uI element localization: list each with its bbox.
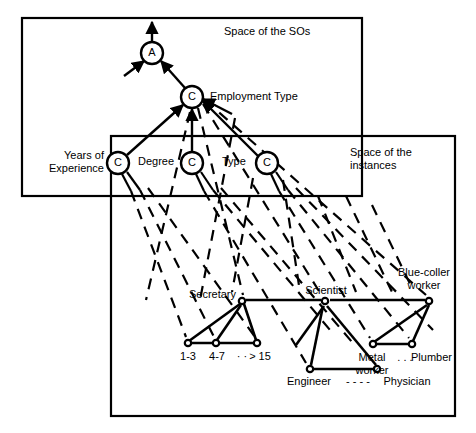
metalworker-label-line1: Metal (346, 351, 398, 364)
dashed-long-left (146, 112, 190, 300)
bluecollar-label-line1: Blue-coller (386, 266, 462, 279)
instance-marker-metalworker (370, 341, 376, 347)
node-employment-type-glyph: C (182, 90, 202, 103)
node-type-glyph: C (257, 156, 277, 169)
node-degree-glyph: C (182, 156, 202, 169)
edge-years-to-employmenttype (127, 105, 183, 155)
diagram-canvas: A C C C C Space of the SOs Space of the … (0, 0, 476, 433)
engineer-physician-ellipsis-label: - - - - (340, 375, 376, 388)
years-of-experience-label-line2: Experience (28, 162, 104, 175)
node-a-label: A (142, 46, 162, 59)
instance-marker-4-7 (213, 340, 219, 346)
edge-type-to-employmenttype (203, 101, 258, 156)
plumber-label: Plumber (411, 351, 452, 364)
scientist-label: Scientist (296, 284, 356, 297)
instance-marker-plumber (409, 341, 415, 347)
dashed-years-4-7 (140, 190, 214, 337)
dashed-employmenttype-scientist (203, 104, 322, 296)
instance-marker-gt15 (254, 340, 260, 346)
dashed-degree-physician (213, 190, 330, 330)
range-1-3-label: 1-3 (173, 350, 203, 363)
instance-space-title-line1: Space of the (350, 146, 412, 159)
range-gt15-label: > 15 (243, 350, 277, 363)
instance-marker-scientist (322, 298, 328, 304)
degree-label: Degree (138, 155, 174, 168)
bluecollar-label-line2: worker (386, 279, 462, 292)
dashed-type-extra (296, 188, 433, 330)
engineer-label: Engineer (276, 375, 342, 388)
secretary-label: Secretary (172, 288, 236, 301)
instance-marker-engineer (307, 366, 313, 372)
edge-secretary-gt15 (244, 304, 256, 340)
type-label: Type (222, 155, 246, 168)
edge-secretary-4-7 (217, 305, 241, 340)
edge-secretary-1-3 (189, 304, 240, 341)
node-years-of-experience-glyph: C (108, 156, 128, 169)
instance-marker-secretary (239, 298, 245, 304)
instance-marker-bluecollar (426, 298, 432, 304)
instance-space-title-line2: instances (350, 159, 396, 172)
range-4-7-label: 4-7 (202, 350, 232, 363)
metalworker-label-line2: worker (346, 364, 398, 377)
instance-marker-1-3 (185, 340, 191, 346)
years-of-experience-label-line1: Years of (36, 149, 104, 162)
dashed-type-metalworker (279, 191, 370, 338)
edge-bluecollar-metalworker (374, 305, 427, 342)
so-space-title: Space of the SOs (224, 25, 310, 38)
employment-type-label: Employment Type (210, 90, 298, 103)
edge-into-a-left (124, 61, 144, 76)
physician-label: Physician (374, 375, 440, 388)
diagram-svg (0, 0, 476, 433)
edge-employmenttype-to-a (161, 61, 185, 88)
